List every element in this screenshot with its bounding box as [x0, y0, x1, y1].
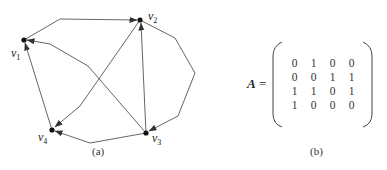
caption-a: (a) [92, 145, 104, 157]
matrix-cell: 1 [285, 84, 304, 98]
matrix-cell: 1 [304, 56, 323, 70]
vertex-v3 [143, 130, 148, 135]
vertex-label-v3: v3 [152, 132, 161, 147]
adjacency-matrix: 0 1 0 0 0 0 1 1 1 1 0 1 1 0 0 0 [285, 56, 361, 112]
matrix-cell: 0 [304, 70, 323, 84]
matrix-cell: 0 [304, 98, 323, 112]
matrix-cell: 0 [323, 98, 342, 112]
matrix-cell: 0 [285, 56, 304, 70]
matrix-cell: 1 [285, 98, 304, 112]
edge-v1-v2 [24, 19, 137, 40]
vertex-v1 [21, 37, 26, 42]
matrix-cell: 0 [323, 84, 342, 98]
matrix-cell: 0 [285, 70, 304, 84]
matrix-cell: 0 [342, 56, 361, 70]
vertex-v4 [49, 127, 54, 132]
vertex-label-v1: v1 [11, 47, 20, 62]
matrix-cell: 0 [342, 98, 361, 112]
matrix-cell: 1 [323, 70, 342, 84]
matrix-label: A = [247, 76, 266, 92]
matrix-cell: 1 [342, 70, 361, 84]
edge-v2-v3 [142, 21, 195, 131]
matrix-cell: 1 [304, 84, 323, 98]
matrix-cell: 0 [323, 56, 342, 70]
matrix-cell: 1 [342, 84, 361, 98]
caption-b: (b) [310, 145, 323, 157]
vertex-label-v4: v4 [38, 131, 47, 146]
edge-v4-v1 [25, 43, 52, 130]
edge-v3-v1 [27, 40, 146, 133]
vertex-label-v2: v2 [148, 10, 157, 25]
vertex-v2 [137, 17, 142, 22]
edge-v3-v4 [55, 131, 146, 143]
edge-v3-v2 [141, 23, 146, 133]
